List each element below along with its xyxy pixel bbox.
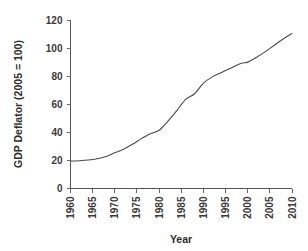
x-tick-label: 1980 — [154, 196, 165, 219]
x-tick-label: 2005 — [264, 196, 275, 219]
y-tick-label: 60 — [51, 99, 63, 110]
x-axis-ticks — [71, 189, 293, 193]
x-tick-label: 2000 — [242, 196, 253, 219]
x-tick-label: 1975 — [131, 196, 142, 219]
y-tick-label: 20 — [51, 155, 63, 166]
plot-area — [71, 33, 293, 161]
x-tick-label: 1995 — [220, 196, 231, 219]
y-axis-title: GDP Deflator (2005 = 100) — [12, 40, 24, 168]
x-axis-group: 1960196519701975198019851990199520002005… — [65, 189, 298, 219]
gdp-deflator-series-line — [71, 33, 293, 161]
y-tick-label: 100 — [46, 43, 63, 54]
x-tick-label: 1985 — [176, 196, 187, 219]
y-axis-tick-labels: 020406080100120 — [46, 15, 63, 195]
x-tick-label: 1960 — [65, 196, 76, 219]
y-tick-label: 80 — [51, 71, 63, 82]
y-axis-group: 020406080100120 — [46, 15, 71, 195]
y-axis-ticks — [67, 20, 71, 189]
chart-canvas: 020406080100120 196019651970197519801985… — [0, 0, 308, 251]
gdp-deflator-line-chart: 020406080100120 196019651970197519801985… — [0, 0, 308, 251]
x-tick-label: 1990 — [198, 196, 209, 219]
x-tick-label: 1970 — [109, 196, 120, 219]
y-tick-label: 120 — [46, 15, 63, 26]
x-tick-label: 1965 — [87, 196, 98, 219]
x-tick-label: 2010 — [287, 196, 298, 219]
y-tick-label: 40 — [51, 127, 63, 138]
y-tick-label: 0 — [57, 183, 63, 194]
x-axis-title: Year — [170, 233, 192, 245]
x-axis-tick-labels: 1960196519701975198019851990199520002005… — [65, 196, 298, 219]
